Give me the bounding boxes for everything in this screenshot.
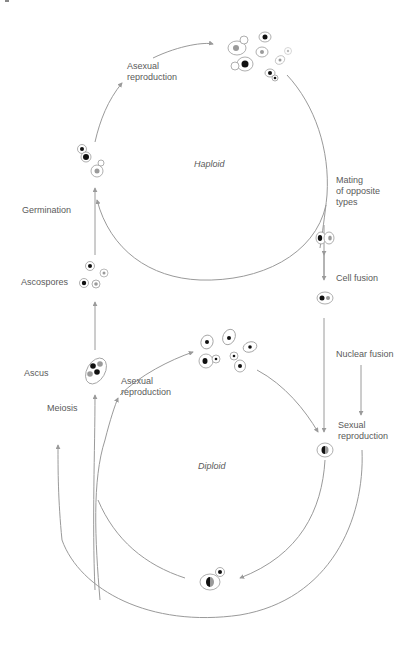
label-asexual-reproduction-bottom: Asexual reproduction bbox=[121, 376, 171, 398]
diploid-budding-cell-bottom bbox=[200, 568, 225, 591]
label-sexual-reproduction: Sexual reproduction bbox=[338, 420, 388, 442]
label-ascospores: Ascospores bbox=[21, 277, 68, 288]
diploid-zygote bbox=[317, 443, 333, 457]
label-germination: Germination bbox=[22, 205, 71, 216]
label-diploid-phase: Diploid bbox=[198, 461, 226, 471]
label-meiosis: Meiosis bbox=[47, 403, 78, 414]
label-ascus: Ascus bbox=[24, 368, 49, 379]
label-asexual-reproduction-top: Asexual reproduction bbox=[127, 61, 177, 83]
germinating-spores bbox=[78, 145, 105, 178]
life-cycle-diagram bbox=[0, 0, 416, 645]
diploid-budding-cells bbox=[199, 327, 258, 372]
label-nuclear-fusion: Nuclear fusion bbox=[336, 349, 394, 360]
ascus bbox=[81, 354, 111, 387]
fused-cell bbox=[317, 292, 333, 304]
mating-pair bbox=[316, 232, 334, 244]
label-haploid-phase: Haploid bbox=[194, 159, 225, 169]
label-mating-of-opposite-types: Mating of opposite types bbox=[336, 175, 380, 208]
ascospores bbox=[80, 262, 109, 289]
haploid-budding-cells bbox=[228, 32, 292, 81]
label-cell-fusion: Cell fusion bbox=[336, 273, 378, 284]
